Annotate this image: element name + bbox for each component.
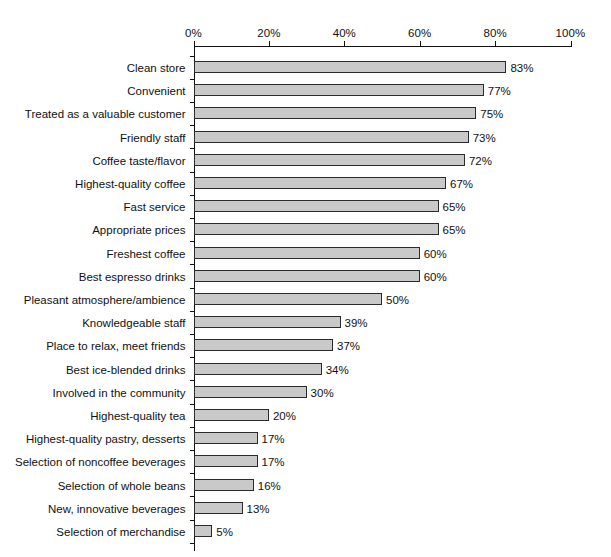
value-label: 20% [273, 410, 296, 422]
category-label: Selection of noncoffee beverages [0, 456, 186, 468]
value-label: 73% [473, 132, 496, 144]
y-axis-tick [190, 357, 195, 358]
value-label: 17% [262, 456, 285, 468]
value-label: 39% [345, 317, 368, 329]
category-label: Knowledgeable staff [0, 317, 186, 329]
y-axis-tick [190, 380, 195, 381]
value-label: 75% [480, 108, 503, 120]
x-axis-tick [420, 41, 421, 46]
value-label: 67% [450, 178, 473, 190]
x-axis-tick [344, 41, 345, 46]
bar [194, 84, 484, 96]
value-label: 83% [510, 62, 533, 74]
y-axis-tick [190, 148, 195, 149]
y-axis-tick [190, 334, 195, 335]
value-label: 13% [247, 503, 270, 515]
category-label: Freshest coffee [0, 248, 186, 260]
bar [194, 293, 383, 305]
horizontal-bar-chart: 0%20%40%60%80%100% Clean store83%Conveni… [0, 0, 611, 557]
category-label: Place to relax, meet friends [0, 340, 186, 352]
category-label: Fast service [0, 201, 186, 213]
bar [194, 339, 333, 351]
x-axis-tick-label: 20% [257, 26, 280, 40]
category-label: Highest-quality pastry, desserts [0, 433, 186, 445]
x-axis-tick-labels: 0%20%40%60%80%100% [0, 26, 611, 42]
category-label: Clean store [0, 62, 186, 74]
category-label: Selection of whole beans [0, 480, 186, 492]
category-label: Friendly staff [0, 132, 186, 144]
category-label: Coffee taste/flavor [0, 155, 186, 167]
category-label: Best ice-blended drinks [0, 364, 186, 376]
y-axis-tick [190, 79, 195, 80]
value-label: 60% [424, 248, 447, 260]
value-label: 34% [326, 364, 349, 376]
category-label: Highest-quality tea [0, 410, 186, 422]
y-axis-tick [190, 496, 195, 497]
category-label: Best espresso drinks [0, 271, 186, 283]
bar [194, 316, 341, 328]
bar [194, 247, 420, 259]
value-label: 60% [424, 271, 447, 283]
y-axis-tick [190, 311, 195, 312]
value-label: 17% [262, 433, 285, 445]
y-axis-tick [190, 172, 195, 173]
bar [194, 223, 439, 235]
y-axis-tick [190, 427, 195, 428]
category-label: New, innovative beverages [0, 503, 186, 515]
x-axis-tick [194, 41, 195, 46]
bar [194, 107, 477, 119]
bar [194, 363, 322, 375]
x-axis-tick-label: 100% [556, 26, 586, 40]
x-axis-tick-label: 40% [333, 26, 356, 40]
y-axis-tick [190, 241, 195, 242]
category-label: Highest-quality coffee [0, 178, 186, 190]
value-label: 16% [258, 480, 281, 492]
value-label: 77% [488, 85, 511, 97]
y-axis-tick [190, 264, 195, 265]
bar [194, 177, 447, 189]
value-label: 72% [469, 155, 492, 167]
bar [194, 154, 465, 166]
value-label: 65% [443, 224, 466, 236]
category-label: Treated as a valuable customer [0, 108, 186, 120]
category-label: Selection of merchandise [0, 526, 186, 538]
y-axis-tick [190, 473, 195, 474]
y-axis-tick [190, 218, 195, 219]
bar [194, 131, 469, 143]
category-label: Pleasant atmosphere/ambience [0, 294, 186, 306]
value-label: 5% [216, 526, 233, 538]
x-axis-tick [495, 41, 496, 46]
y-axis-tick [190, 125, 195, 126]
value-label: 30% [311, 387, 334, 399]
category-label: Appropriate prices [0, 224, 186, 236]
bar [194, 525, 213, 537]
x-axis-tick-label: 60% [408, 26, 431, 40]
y-axis-tick [190, 543, 195, 544]
value-label: 37% [337, 340, 360, 352]
y-axis-tick [190, 288, 195, 289]
category-label: Involved in the community [0, 387, 186, 399]
bar [194, 61, 507, 73]
y-axis-tick [190, 404, 195, 405]
y-axis-tick [190, 195, 195, 196]
x-axis-tick [571, 41, 572, 46]
x-axis-tick-label: 80% [483, 26, 506, 40]
value-label: 65% [443, 201, 466, 213]
x-axis-line [194, 46, 572, 47]
y-axis-tick [190, 450, 195, 451]
y-axis-tick [190, 102, 195, 103]
bar [194, 479, 254, 491]
bar [194, 270, 420, 282]
bar [194, 386, 307, 398]
x-axis-tick-label: 0% [185, 26, 202, 40]
bar [194, 455, 258, 467]
x-axis-tick [269, 41, 270, 46]
bar [194, 200, 439, 212]
y-axis-tick [190, 56, 195, 57]
bar [194, 432, 258, 444]
bar [194, 409, 269, 421]
bar [194, 502, 243, 514]
y-axis-tick [190, 520, 195, 521]
value-label: 50% [386, 294, 409, 306]
category-label: Convenient [0, 85, 186, 97]
